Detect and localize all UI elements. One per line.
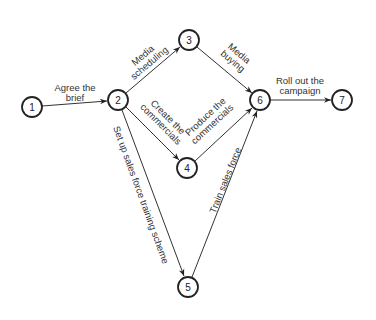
svg-text:campaign: campaign <box>279 85 320 96</box>
svg-text:Train sales force: Train sales force <box>207 146 243 215</box>
node-6: 6 <box>250 90 270 110</box>
network-diagram: Agree the brief Media scheduling Media b… <box>0 0 376 320</box>
node-7: 7 <box>332 90 352 110</box>
edge-label-2-4: Create the commercials <box>138 94 191 147</box>
svg-text:3: 3 <box>186 35 192 46</box>
node-3: 3 <box>179 30 199 50</box>
edge-label-6-7: Roll out the campaign <box>276 75 324 96</box>
node-5: 5 <box>178 277 198 297</box>
svg-text:brief: brief <box>66 92 85 103</box>
edge-label-2-3: Media scheduling <box>122 36 170 81</box>
svg-text:Set up sales force training sc: Set up sales force training scheme <box>111 124 171 265</box>
edge-label-2-5: Set up sales force training scheme <box>111 124 171 265</box>
edge-label-4-6: Produce the commercials <box>182 94 235 146</box>
svg-text:5: 5 <box>185 282 191 293</box>
node-1: 1 <box>22 97 42 117</box>
edge-label-5-6: Train sales force <box>207 146 243 215</box>
svg-text:1: 1 <box>29 102 35 113</box>
svg-text:4: 4 <box>184 163 190 174</box>
node-2: 2 <box>108 90 128 110</box>
node-4: 4 <box>177 158 197 178</box>
edge-label-1-2: Agree the brief <box>54 82 95 103</box>
svg-text:2: 2 <box>115 95 121 106</box>
svg-text:7: 7 <box>339 95 345 106</box>
svg-text:6: 6 <box>257 95 263 106</box>
